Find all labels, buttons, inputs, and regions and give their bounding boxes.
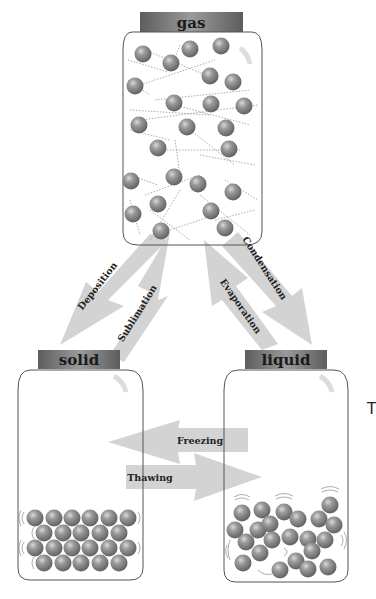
solid-jar: solid	[18, 350, 143, 580]
phase-diagram: gas	[0, 0, 376, 599]
freezing-label: Freezing	[177, 435, 224, 446]
liquid-label: liquid	[262, 351, 311, 369]
stray-text: T	[367, 400, 376, 418]
gas-jar: gas	[123, 12, 263, 245]
solid-label: solid	[59, 351, 100, 369]
liquid-molecules	[227, 497, 343, 579]
thawing-label: Thawing	[127, 472, 173, 483]
liquid-jar: liquid	[224, 350, 348, 582]
gas-label: gas	[177, 14, 206, 32]
solid-molecules	[27, 510, 137, 572]
evaporation-label: Evaporation	[218, 277, 264, 336]
